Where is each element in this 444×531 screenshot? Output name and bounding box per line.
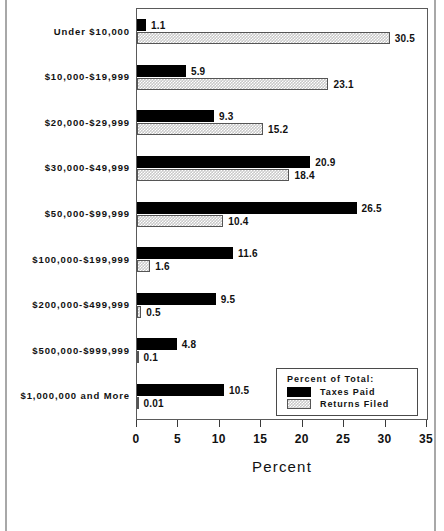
bar-value-label: 26.5 <box>362 202 382 213</box>
bar-value-label: 9.5 <box>221 293 236 304</box>
x-axis-tick <box>177 420 178 427</box>
bar-value-label: 0.01 <box>144 397 164 408</box>
bar-taxes-paid <box>137 338 177 350</box>
bar-taxes-paid <box>137 247 233 259</box>
bar-value-label: 1.1 <box>151 20 166 31</box>
x-axis-title: Percent <box>136 458 428 475</box>
bar-taxes-paid <box>137 156 310 168</box>
x-axis-ticks <box>136 420 428 432</box>
x-axis-tick <box>260 420 261 427</box>
bar-returns-filed <box>137 215 223 227</box>
bar-value-label: 0.1 <box>144 352 159 363</box>
category-label: $50,000-$99,999 <box>45 208 130 219</box>
legend-entry-taxes-paid: Taxes Paid <box>287 387 417 397</box>
x-axis-tick-label: 20 <box>295 432 309 446</box>
x-axis-tick-label: 15 <box>253 432 267 446</box>
bar-taxes-paid <box>137 384 224 396</box>
x-axis-tick <box>426 420 427 427</box>
x-axis-tick-label: 0 <box>132 432 139 446</box>
bar-taxes-paid <box>137 19 146 31</box>
bar-value-label: 20.9 <box>315 156 335 167</box>
bar-value-label: 4.8 <box>182 339 197 350</box>
bar-value-label: 10.4 <box>228 215 248 226</box>
page-rule-right <box>434 0 436 531</box>
chart-root: Under $10,000$10,000-$19,999$20,000-$29,… <box>0 0 444 531</box>
category-label: $20,000-$29,999 <box>45 116 130 127</box>
bar-value-label: 15.2 <box>268 124 288 135</box>
bar-returns-filed <box>137 169 289 181</box>
bar-value-label: 30.5 <box>395 33 415 44</box>
bar-returns-filed <box>137 78 328 90</box>
x-axis-tick <box>219 420 220 427</box>
bar-returns-filed <box>137 351 139 363</box>
category-label: $100,000-$199,999 <box>32 253 130 264</box>
legend-swatch-returns-filed <box>287 399 311 409</box>
category-label: $1,000,000 and More <box>20 390 130 401</box>
legend-label-taxes-paid: Taxes Paid <box>320 387 375 397</box>
bar-value-label: 0.5 <box>146 306 161 317</box>
category-label: $500,000-$999,999 <box>32 344 130 355</box>
bar-returns-filed <box>137 123 263 135</box>
bar-returns-filed <box>137 306 141 318</box>
bar-taxes-paid <box>137 293 216 305</box>
bar-returns-filed <box>137 260 150 272</box>
x-axis-tick <box>343 420 344 427</box>
bar-value-label: 10.5 <box>229 384 249 395</box>
legend-title: Percent of Total: <box>287 374 417 384</box>
x-axis-tick <box>136 420 137 427</box>
bar-value-label: 1.6 <box>155 261 170 272</box>
category-label: Under $10,000 <box>54 25 130 36</box>
x-axis-tick <box>302 420 303 427</box>
bar-value-label: 9.3 <box>219 111 234 122</box>
legend-label-returns-filed: Returns Filed <box>320 399 389 409</box>
bar-value-label: 5.9 <box>191 65 206 76</box>
legend-swatch-taxes-paid <box>287 387 311 397</box>
category-label: $200,000-$499,999 <box>32 299 130 310</box>
category-label: $30,000-$49,999 <box>45 162 130 173</box>
bar-value-label: 23.1 <box>333 78 353 89</box>
legend-entry-returns-filed: Returns Filed <box>287 399 417 409</box>
x-axis-tick-label: 5 <box>174 432 181 446</box>
x-axis-tick-label: 10 <box>212 432 226 446</box>
x-axis-tick-labels: 05101520253035 <box>136 432 428 448</box>
x-axis-tick <box>385 420 386 427</box>
bar-value-label: 11.6 <box>238 248 258 259</box>
x-axis-tick-label: 25 <box>336 432 350 446</box>
bar-returns-filed <box>137 397 139 409</box>
page-rule-left <box>5 0 7 531</box>
bar-returns-filed <box>137 32 390 44</box>
x-axis-tick-label: 30 <box>377 432 391 446</box>
bar-value-label: 18.4 <box>294 169 314 180</box>
bar-taxes-paid <box>137 202 357 214</box>
bar-taxes-paid <box>137 110 214 122</box>
bars-layer: 1.130.55.923.19.315.220.918.426.510.411.… <box>137 9 427 419</box>
legend: Percent of Total: Taxes Paid Returns Fil… <box>276 368 418 416</box>
category-label: $10,000-$19,999 <box>45 71 130 82</box>
category-axis: Under $10,000$10,000-$19,999$20,000-$29,… <box>10 8 134 420</box>
x-axis-tick-label: 35 <box>419 432 433 446</box>
bar-taxes-paid <box>137 65 186 77</box>
